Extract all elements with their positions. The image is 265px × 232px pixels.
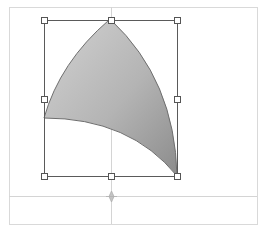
- resize-handle-middle-right[interactable]: [175, 97, 181, 103]
- resize-handle-top-center[interactable]: [109, 18, 115, 24]
- resize-handle-bottom-left[interactable]: [42, 174, 48, 180]
- drawing-canvas[interactable]: [0, 0, 265, 232]
- resize-handle-middle-left[interactable]: [42, 97, 48, 103]
- resize-handle-top-left[interactable]: [42, 18, 48, 24]
- pivot-crosshair-icon[interactable]: [106, 191, 117, 202]
- canvas-svg[interactable]: [0, 0, 265, 232]
- resize-handle-top-right[interactable]: [175, 18, 181, 24]
- selected-shape[interactable]: [44, 20, 177, 176]
- resize-handle-bottom-center[interactable]: [109, 174, 115, 180]
- resize-handle-bottom-right[interactable]: [175, 174, 181, 180]
